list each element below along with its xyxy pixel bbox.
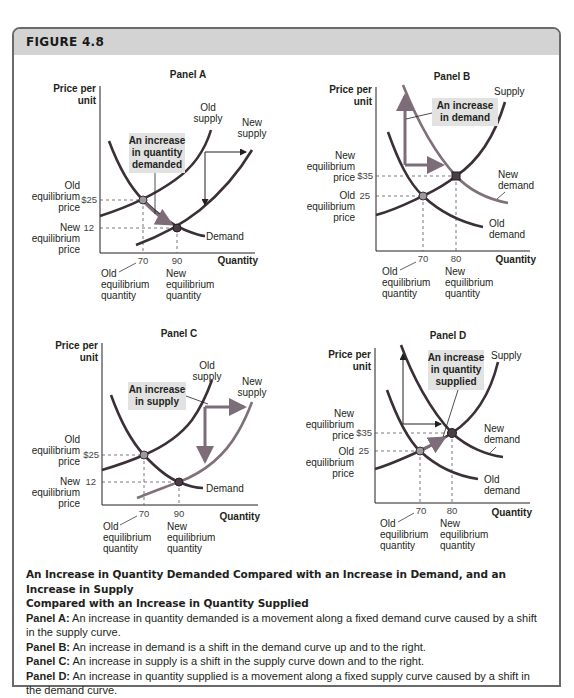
panel-d-new-qty-tick: 80 bbox=[447, 505, 458, 516]
panel-d-old-qty-label-1: Old bbox=[380, 518, 396, 529]
caption-label: Panel C: bbox=[26, 655, 70, 667]
panel-d-old-demand-curve bbox=[387, 390, 478, 479]
panel-d-new-price-tick: $35 bbox=[356, 427, 372, 438]
panel-d-old-qty-label-3: quantity bbox=[380, 540, 415, 551]
panel-d-new-price-label-2: equilibrium bbox=[306, 419, 354, 430]
panel-d-qty-pointer bbox=[398, 513, 414, 522]
panel-d-new-demand-label-2: demand bbox=[484, 434, 520, 445]
panel-d-old-qty-tick: 70 bbox=[416, 505, 427, 516]
panel-d-new-price-label-1: New bbox=[334, 408, 355, 419]
panel-d-old-qty-label-2: equilibrium bbox=[380, 529, 428, 540]
panel-d-supply-label: Supply bbox=[491, 350, 522, 361]
panel-d-old-price-label-1: Old bbox=[338, 446, 354, 457]
caption-row-panel-a: Panel A: An increase in quantity demande… bbox=[26, 611, 546, 640]
panel-d-title: Panel D bbox=[430, 330, 467, 341]
panel-d-new-qty-label-2: equilibrium bbox=[440, 529, 488, 540]
caption-label: Panel A: bbox=[26, 612, 70, 624]
panel-d-old-price-label-3: price bbox=[332, 468, 354, 479]
caption-row-panel-b: Panel B: An increase in demand is a shif… bbox=[26, 640, 546, 655]
panel-d-callout-line-1: An increase bbox=[428, 352, 485, 363]
panel-d-old-price-label-2: equilibrium bbox=[306, 457, 354, 468]
panel-d-y-axis-label-1: Price per bbox=[328, 349, 371, 360]
panel-d-new-equilibrium-dot bbox=[448, 429, 457, 438]
caption-text: An increase in quantity demanded is a mo… bbox=[26, 612, 537, 639]
figure-caption: An Increase in Quantity Demanded Compare… bbox=[26, 567, 546, 698]
panel-d-callout-line-3: supplied bbox=[435, 376, 476, 387]
panel-d-new-qty-label-3: quantity bbox=[440, 540, 475, 551]
panel-d-old-demand-label-2: demand bbox=[484, 485, 520, 496]
caption-label: Panel B: bbox=[26, 641, 70, 653]
caption-text: An increase in quantity supplied is a mo… bbox=[26, 670, 530, 697]
panel-d-x-axis-label: Quantity bbox=[491, 507, 532, 518]
panel-d-y-axis-label-2: unit bbox=[353, 361, 372, 372]
caption-title-line-2: Compared with an Increase in Quantity Su… bbox=[26, 596, 546, 611]
caption-label: Panel D: bbox=[26, 670, 70, 682]
panel-d-old-equilibrium-dot bbox=[416, 447, 424, 455]
panel-d-chart: Panel D Price per unit Quantity An incre… bbox=[0, 0, 574, 560]
panel-d-new-price-label-3: price bbox=[332, 430, 354, 441]
caption-row-panel-d: Panel D: An increase in quantity supplie… bbox=[26, 669, 546, 698]
caption-row-panel-c: Panel C: An increase in supply is a shif… bbox=[26, 654, 546, 669]
caption-text: An increase in demand is a shift in the … bbox=[70, 641, 426, 653]
panel-d-old-demand-label-1: Old bbox=[484, 474, 500, 485]
panel-d-callout-line-2: in quantity bbox=[431, 364, 482, 375]
caption-text: An increase in supply is a shift in the … bbox=[70, 655, 424, 667]
panel-d-new-qty-label-1: New bbox=[440, 518, 461, 529]
caption-title-line-1: An Increase in Quantity Demanded Compare… bbox=[26, 567, 546, 596]
panel-d-new-demand-label-1: New bbox=[484, 423, 505, 434]
panel-d-old-price-tick: 25 bbox=[358, 445, 369, 456]
panel-d-movement-arrow bbox=[423, 438, 444, 449]
